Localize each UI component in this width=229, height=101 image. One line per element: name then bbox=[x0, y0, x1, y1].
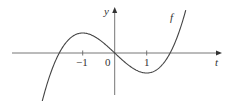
origin-label: 0 bbox=[105, 56, 111, 68]
curve-label: f bbox=[170, 11, 175, 23]
tick-label-1: 1 bbox=[144, 56, 150, 68]
y-axis-label: y bbox=[103, 5, 109, 17]
function-curve bbox=[42, 10, 186, 101]
x-axis-arrow-icon bbox=[216, 51, 222, 56]
y-axis-arrow-icon bbox=[112, 7, 117, 13]
x-axis-label: t bbox=[215, 56, 219, 68]
graph: y t f −1 0 1 bbox=[0, 0, 229, 101]
tick-label-neg1: −1 bbox=[76, 56, 88, 68]
